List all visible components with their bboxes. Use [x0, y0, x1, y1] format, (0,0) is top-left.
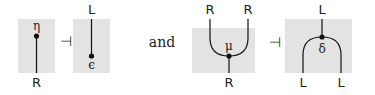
- multiplication-top-label-left: R: [205, 2, 214, 17]
- unit-label: η: [33, 19, 40, 33]
- and-text: and: [149, 34, 175, 50]
- comultiplication-top-label: L: [318, 2, 326, 17]
- counit-label: ϵ: [88, 58, 95, 72]
- multiplication-label: μ: [225, 39, 233, 53]
- unit-node: [34, 33, 39, 38]
- adjoint-symbol-1: ⊣: [60, 33, 72, 49]
- adjoint-symbol-2: ⊣: [269, 34, 281, 50]
- comultiplication-diagram: δ L L L: [285, 2, 352, 90]
- comultiplication-bottom-label-left: L: [299, 75, 307, 90]
- comultiplication-node: [319, 34, 324, 39]
- unit-diagram: η R: [18, 19, 55, 90]
- comultiplication-label: δ: [318, 42, 325, 56]
- counit-top-label: L: [88, 2, 96, 17]
- comultiplication-bottom-label-right: L: [337, 75, 345, 90]
- multiplication-bottom-label: R: [224, 75, 233, 90]
- multiplication-box: [192, 28, 255, 73]
- string-diagram: η R ⊣ L ϵ and μ R R R ⊣ δ L L L: [0, 0, 375, 95]
- multiplication-top-label-right: R: [243, 2, 252, 17]
- unit-bottom-label: R: [32, 75, 41, 90]
- multiplication-diagram: μ R R R: [192, 2, 255, 90]
- counit-diagram: L ϵ: [73, 2, 110, 73]
- multiplication-node: [226, 53, 231, 58]
